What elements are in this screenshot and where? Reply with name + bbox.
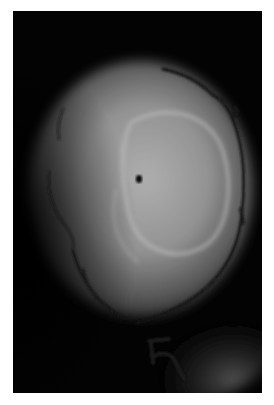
bottom-strip [0,395,274,405]
photo-frame [13,11,262,393]
specimen-photo [13,11,262,393]
